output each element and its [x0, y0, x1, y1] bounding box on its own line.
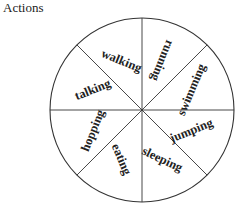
wheel-dividers	[50, 18, 234, 202]
segment-label-jumping: jumping	[167, 115, 216, 146]
action-wheel: runningswimmingjumpingsleepingeatinghopp…	[0, 0, 242, 203]
segment-label-walking: walking	[99, 46, 144, 75]
segment-label-running: running	[148, 38, 177, 84]
segment-label-swimming: swimming	[174, 61, 209, 118]
segment-label-hopping: hopping	[78, 107, 108, 154]
segment-label-sleeping: sleeping	[140, 144, 186, 175]
segment-label-eating: eating	[109, 142, 135, 178]
segment-label-talking: talking	[73, 76, 114, 103]
